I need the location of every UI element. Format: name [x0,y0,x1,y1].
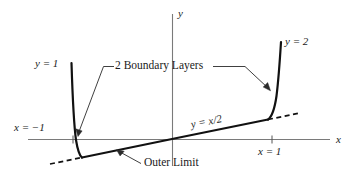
y-axis-label: y [178,8,183,19]
outer-limit-callout-label: Outer Limit [144,157,199,169]
boundary-layers-arrowhead-right [263,83,270,91]
tick-label-left: x = −1 [14,122,45,133]
boundary-layers-arrowhead-left [76,129,82,137]
boundary-layers-callout-label: 2 Boundary Layers [115,60,203,72]
right-boundary-layer-curve [268,42,281,120]
tick-label-right: x = 1 [258,146,281,157]
figure-canvas [0,0,357,179]
outer-solution-dashed-left [50,158,82,165]
x-axis-label: x [336,134,341,145]
outer-limit-leader [120,152,141,164]
outer-solution-line [82,120,268,158]
outer-limit-arrowhead [117,150,125,156]
boundary-layers-leader-left [79,67,115,134]
boundary-layer-figure: y x y = 1 y = 2 y = x/2 x = −1 x = 1 2 B… [0,0,357,179]
boundary-layers-leader-right [213,67,268,89]
left-boundary-value-label: y = 1 [35,58,58,69]
right-boundary-value-label: y = 2 [285,36,308,47]
